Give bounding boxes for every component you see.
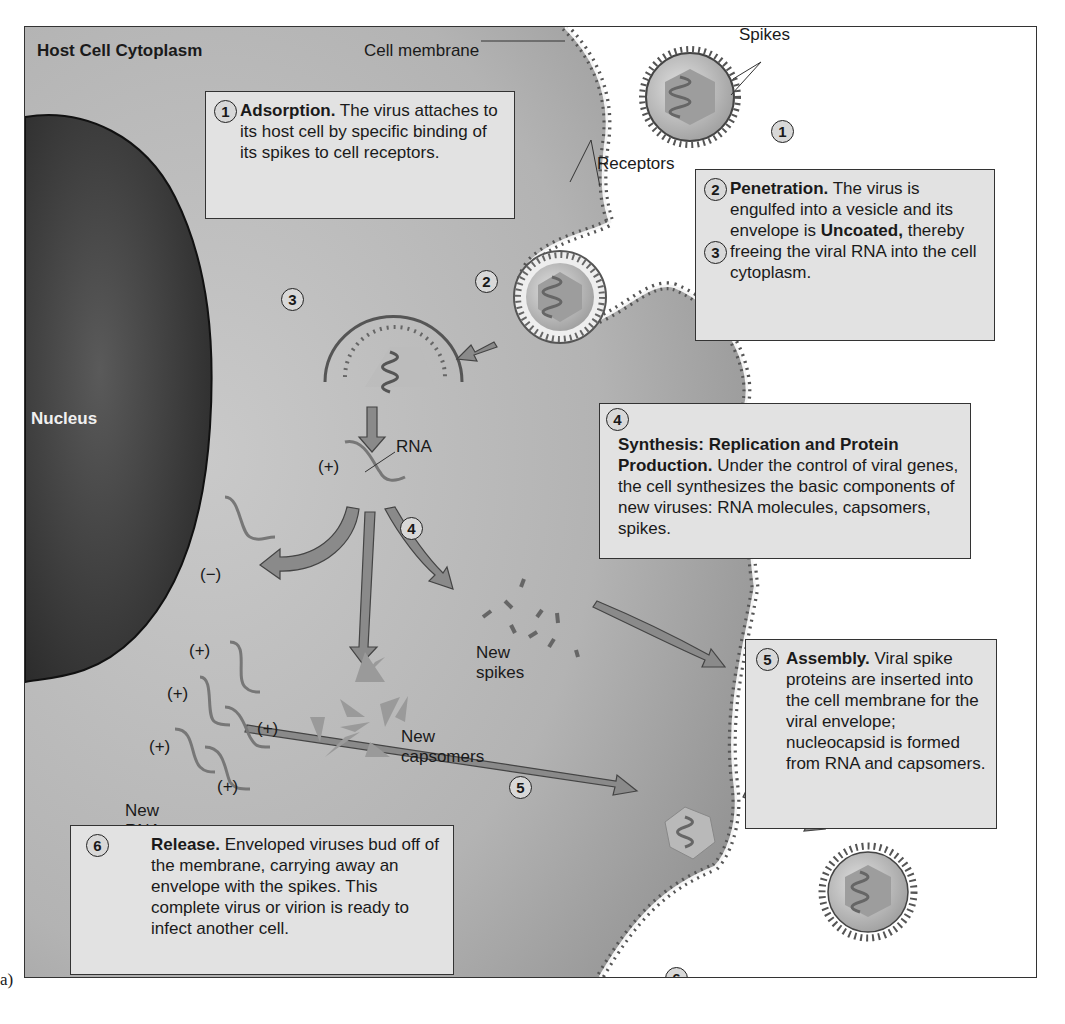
step-6-release-box: 6 Release. Enveloped viruses bud off of … [70,825,454,975]
step-6-number: 6 [86,834,109,857]
minus-strand-label: (−) [200,565,221,585]
new-capsomers-label: New capsomers [401,727,491,767]
virus-in-vesicle [514,251,606,343]
step-4-number: 4 [606,408,629,431]
virus-adsorbing [642,49,738,145]
step-marker-3: 3 [281,288,304,311]
step-1-number: 1 [214,100,237,123]
plus-strand-label-4: (+) [257,719,278,739]
released-virion [822,846,914,938]
step-2-number: 2 [704,178,727,201]
step-marker-2: 2 [475,270,498,293]
plus-strand-label: (+) [318,457,339,477]
spikes-label: Spikes [739,26,790,45]
plus-strand-label-2: (+) [189,641,210,661]
step-6-title: Release. [151,835,220,854]
plus-strand-label-6: (+) [217,777,238,797]
plus-strand-label-3: (+) [167,684,188,704]
step-marker-1: 1 [771,120,794,143]
step-marker-4: 4 [400,517,423,540]
step-2-title: Penetration. [730,179,828,198]
step-5-assembly-box: 5 Assembly. Viral spike proteins are ins… [745,639,997,829]
step-5-title: Assembly. [786,649,870,668]
diagram-frame: Host Cell Cytoplasm Cell membrane Spikes… [24,26,1037,978]
step-3-title: Uncoated, [821,221,903,240]
step-5-number: 5 [756,648,779,671]
nucleus-label: Nucleus [31,409,97,429]
rna-label: RNA [396,437,432,457]
step-2-3-penetration-box: 2 Penetration. The virus is engulfed int… [695,169,995,341]
new-spikes-label: New spikes [476,643,536,683]
host-cell-cytoplasm-label: Host Cell Cytoplasm [37,41,202,61]
step-1-title: Adsorption. [240,101,335,120]
step-marker-5: 5 [509,776,532,799]
step-3-number: 3 [704,241,727,264]
step-1-adsorption-box: 1 Adsorption. The virus attaches to its … [205,91,515,219]
step-4-synthesis-box: 4 Synthesis: Replication and Protein Pro… [599,403,971,559]
receptors-label: Receptors [597,154,674,174]
plus-strand-label-5: (+) [149,737,170,757]
panel-label: a) [0,970,13,990]
cell-membrane-label: Cell membrane [364,41,479,61]
